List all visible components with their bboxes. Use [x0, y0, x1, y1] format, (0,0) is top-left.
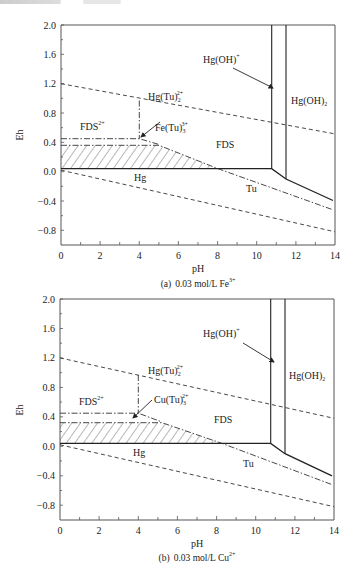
hatched-region	[60, 423, 222, 444]
xtick-label: 8	[215, 250, 220, 261]
pourbaix-chart-b: 2.0 1.6 1.2 0.8 0.4 0.0 −0.4 −0.8 Eh 0 2…	[0, 274, 360, 574]
ytick-label: −0.8	[37, 500, 55, 511]
x-axis-a: 0 2 4 6 8 10 12 14 pH	[59, 241, 341, 274]
arrow-hgoh-plus	[243, 343, 274, 362]
xtick-label: 2	[98, 250, 103, 261]
y-axis-label: Eh	[14, 404, 25, 415]
x-axis-b: 0 2 4 6 8 10 12 14 pH	[58, 516, 340, 549]
ytick-label: 1.6	[43, 323, 56, 334]
metal-tu-upper-line	[61, 139, 159, 145]
y-axis-label: Eh	[14, 129, 25, 140]
figure-b: 2.0 1.6 1.2 0.8 0.4 0.0 −0.4 −0.8 Eh 0 2…	[0, 274, 360, 574]
pourbaix-chart-a: 2.0 1.6 1.2 0.8 0.4 0.0 −0.4 −0.8 Eh 0 2…	[0, 0, 360, 290]
xtick-label: 2	[97, 525, 102, 536]
caption-b: (b)0.03 mol/L Cu2+	[159, 551, 236, 564]
ytick-label: 0.8	[43, 382, 56, 393]
xtick-label: 8	[214, 525, 219, 536]
label-metal-tu: Fe(Tu)33+	[155, 121, 188, 134]
ytick-label: 2.0	[44, 20, 57, 31]
label-fds2plus: FDS2+	[80, 120, 105, 132]
xtick-label: 14	[329, 525, 339, 536]
xtick-label: 4	[137, 250, 142, 261]
x-axis-label: pH	[191, 538, 203, 549]
ytick-label: −0.4	[38, 196, 56, 207]
label-hgoh2: Hg(OH)2	[289, 370, 325, 382]
label-metal-tu: Cu(Tu)32+	[154, 393, 189, 406]
label-fds: FDS	[216, 139, 234, 150]
label-hg: Hg	[133, 447, 145, 458]
ytick-label: −0.4	[37, 470, 55, 481]
lower-water-line	[60, 445, 334, 507]
label-tu: Tu	[243, 458, 254, 469]
label-hgtu2: Hg(Tu)22+	[148, 90, 184, 103]
arrow-metal-tu	[133, 400, 152, 418]
xtick-label: 6	[175, 525, 180, 536]
xtick-label: 12	[290, 525, 300, 536]
arrow-hgoh-plus	[233, 68, 273, 88]
label-tu: Tu	[246, 183, 257, 194]
lower-water-line	[61, 170, 335, 232]
ytick-label: 1.2	[43, 352, 56, 363]
xtick-label: 6	[176, 250, 181, 261]
label-fds: FDS	[214, 414, 232, 425]
ytick-label: 0.8	[44, 108, 57, 119]
hg-boundary-solid	[61, 169, 333, 201]
xtick-label: 10	[251, 525, 261, 536]
label-hgoh-plus: Hg(OH)+	[203, 327, 240, 340]
ytick-label: 0.0	[44, 166, 57, 177]
xtick-label: 12	[291, 250, 301, 261]
y-axis-b: 2.0 1.6 1.2 0.8 0.4 0.0 −0.4 −0.8 Eh	[14, 294, 63, 521]
metal-tu-upper-line	[60, 413, 162, 422]
upper-water-line	[60, 358, 334, 418]
hatched-region	[61, 145, 218, 168]
xtick-label: 10	[252, 250, 262, 261]
ytick-label: 2.0	[43, 294, 56, 305]
upper-water-line	[61, 84, 335, 134]
ytick-label: 0.4	[43, 411, 56, 422]
label-hg: Hg	[134, 172, 146, 183]
xtick-label: 4	[136, 525, 141, 536]
y-axis-a: 2.0 1.6 1.2 0.8 0.4 0.0 −0.4 −0.8 Eh	[14, 20, 64, 246]
xtick-label: 0	[59, 250, 64, 261]
ytick-label: 0.4	[44, 137, 57, 148]
x-axis-label: pH	[192, 263, 204, 274]
label-fds2plus: FDS2+	[79, 395, 104, 407]
ytick-label: 1.6	[44, 49, 57, 60]
hg-boundary-solid	[60, 443, 332, 475]
xtick-label: 0	[58, 525, 63, 536]
ytick-label: −0.8	[38, 225, 56, 236]
label-hgtu2: Hg(Tu)22+	[148, 364, 184, 377]
label-hgoh-plus: Hg(OH)+	[203, 53, 240, 66]
ytick-label: 0.0	[43, 441, 56, 452]
label-hgoh2: Hg(OH)2	[291, 95, 327, 107]
ytick-label: 1.2	[44, 78, 57, 89]
figure-a: 2.0 1.6 1.2 0.8 0.4 0.0 −0.4 −0.8 Eh 0 2…	[0, 0, 360, 290]
xtick-label: 14	[330, 250, 340, 261]
